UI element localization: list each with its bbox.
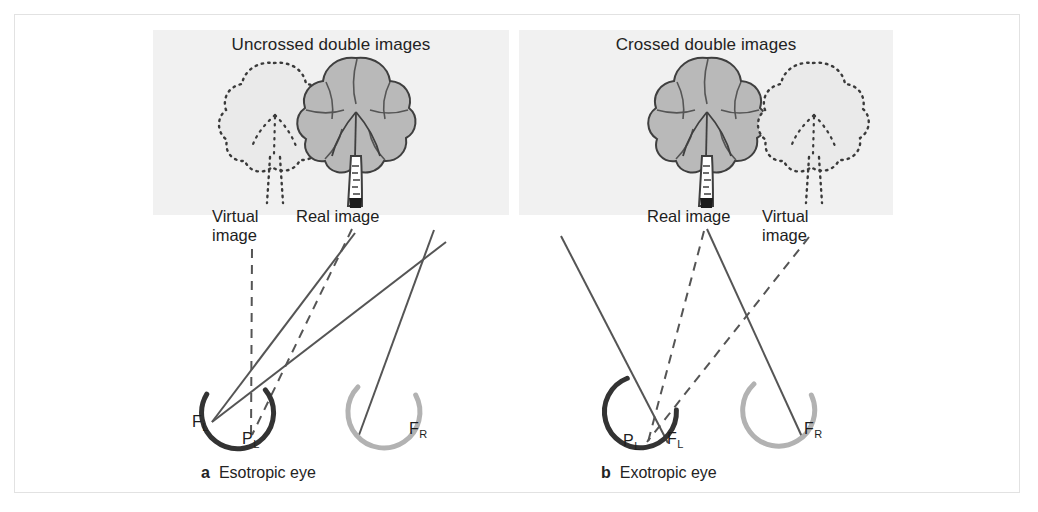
virtual-image-label-b: Virtual image: [762, 207, 808, 245]
real-tree-b: [648, 58, 766, 208]
panel-exotropic: Crossed double images: [15, 15, 1019, 492]
caption-b: bExotropic eye: [601, 464, 717, 482]
ray-solid-left-b: [561, 236, 668, 443]
caption-b-letter: b: [601, 464, 611, 481]
ray-dashed-virtual-b: [647, 237, 809, 442]
figure-frame: Uncrossed double images: [14, 14, 1020, 493]
ray-real-to-right-eye-b: [707, 229, 803, 439]
fovea-right-label-b: FR: [804, 420, 822, 438]
real-image-label-b: Real image: [647, 207, 730, 226]
virtual-tree-b: [758, 63, 869, 203]
pupil-left-label-b: PL: [623, 432, 640, 450]
caption-b-text: Exotropic eye: [620, 464, 717, 481]
panel-b-graphics: [15, 15, 1021, 494]
fovea-left-label-b: FL: [667, 430, 683, 448]
